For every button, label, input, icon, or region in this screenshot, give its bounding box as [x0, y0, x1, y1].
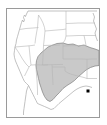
range-map-figure — [0, 0, 107, 125]
border-or-id — [35, 15, 39, 44]
border-sd-ne — [66, 36, 84, 37]
southern-california-coast — [22, 75, 29, 115]
border-wy-id-ut — [44, 31, 46, 46]
map-canvas — [7, 9, 99, 117]
border-mt-wy — [45, 29, 66, 31]
border-or-ca-nv — [15, 45, 35, 47]
point-marker-layer — [87, 90, 90, 93]
border-nd-sd — [66, 23, 83, 24]
border-ne-ia-vertical — [84, 36, 86, 46]
border-id-mt — [39, 15, 46, 31]
shaded-range-area — [36, 43, 99, 102]
border-wy-ne — [63, 29, 66, 43]
map-frame — [6, 8, 100, 118]
northern-california-coast — [14, 44, 22, 76]
gulf-of-california-shore — [29, 86, 38, 104]
shaded-range-layer — [36, 43, 99, 102]
pacific-northwest-coast — [16, 11, 28, 44]
eastern-edge-outline — [93, 13, 98, 41]
locality-point-marker — [87, 90, 90, 93]
border-nv-ut — [25, 46, 32, 76]
border-wa-or — [20, 28, 39, 30]
